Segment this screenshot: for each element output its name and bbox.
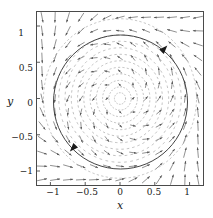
y-tick-label-0p5: 0.5: [19, 64, 33, 73]
y-tick-label-neg0p5: −0.5: [11, 133, 33, 142]
y-tick-label-neg1: −1: [20, 167, 33, 176]
x-tick-label-neg1: −1: [46, 188, 59, 197]
flow-direction-arrowheads: [68, 43, 170, 153]
x-tick-label-0: 0: [117, 188, 123, 197]
y-tick-label-0: 0: [27, 99, 33, 108]
y-axis-title: y: [7, 96, 13, 107]
x-tick-label-0p5: 0.5: [147, 188, 161, 197]
phase-portrait-figure: 1 0.5 0 −0.5 −1 −1 −0.5 0 0.5 1 y x: [0, 0, 213, 218]
x-tick-label-1: 1: [184, 188, 190, 197]
y-tick-label-1: 1: [18, 29, 24, 38]
vector-field-arrows: [37, 12, 203, 185]
inner-spiral-trajectories: [43, 19, 196, 179]
x-tick-label-neg0p5: −0.5: [76, 188, 98, 197]
phase-portrait-canvas: [0, 0, 213, 218]
plot-frame: [37, 12, 204, 186]
x-axis-title: x: [117, 200, 123, 211]
